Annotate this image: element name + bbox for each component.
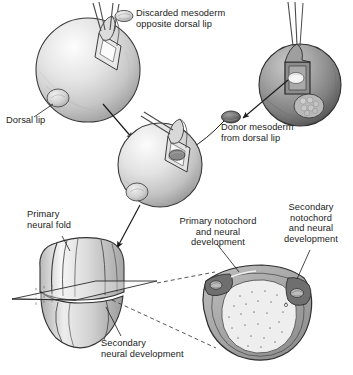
label-secondary-notochord: Secondary notochord and neural developme… (272, 202, 350, 244)
implanted-graft (169, 150, 185, 160)
host-embryo-middle (118, 112, 202, 207)
leader-primary-notochord (217, 244, 239, 272)
discarded-mesoderm-blob (115, 10, 133, 21)
leader-secondary-notochord (297, 250, 310, 279)
embryology-figure: Discarded mesoderm opposite dorsal lip D… (0, 0, 353, 375)
label-primary-neural-fold: Primary neural fold (27, 209, 71, 230)
donor-embryo-top-right (259, 2, 341, 126)
label-donor-mesoderm: Donor mesoderm from dorsal lip (221, 122, 294, 143)
cross-section-inset (203, 244, 312, 360)
donor-dorsal-lip-blob (294, 94, 324, 118)
dorsal-lip-blob-middle (126, 183, 148, 201)
label-secondary-neural-development: Secondary neural development (101, 338, 184, 359)
neurula-embryo (12, 236, 157, 348)
arrow-to-neurula (117, 205, 140, 248)
dorsal-lip-blob (47, 89, 69, 107)
microsurgery-needles-donor (288, 2, 303, 46)
label-discarded-mesoderm: Discarded mesoderm opposite dorsal lip (136, 8, 225, 29)
label-primary-notochord: Primary notochord and neural development (168, 216, 268, 248)
diagram-artwork (0, 0, 353, 375)
section-plane (12, 281, 157, 300)
label-dorsal-lip: Dorsal lip (6, 115, 45, 126)
